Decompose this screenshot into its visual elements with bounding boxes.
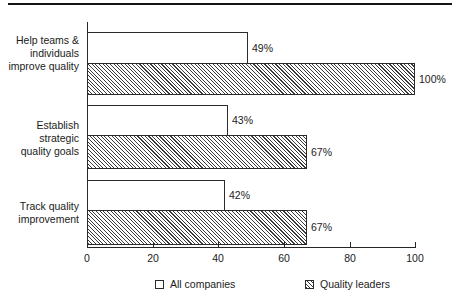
category-label-line: Help teams & [0,34,79,47]
top-divider-rule [8,3,452,5]
bar-value-all-companies-establish-goals: 43% [232,114,253,126]
bar-value-quality-leaders-establish-goals: 67% [311,146,332,158]
x-tick-0 [87,242,88,248]
category-label-line: improvement [0,213,79,226]
bar-all-companies-help-teams [87,32,248,64]
bar-quality-leaders-establish-goals [87,135,307,169]
category-label-line: Establish [0,119,79,132]
bar-all-companies-track-improvement [87,180,225,211]
x-axis-line [87,247,416,248]
legend-item-all-companies: All companies [155,278,235,291]
category-label-help-teams: Help teams & individuals improve quality [0,34,79,73]
category-label-line: Track quality [0,200,79,213]
hatched-square-icon [305,280,314,289]
category-label-line: quality goals [0,145,79,158]
category-label-establish-goals: Establish strategic quality goals [0,119,79,158]
category-label-line: improve quality [0,60,79,73]
bar-value-all-companies-track-improvement: 42% [229,189,250,201]
bar-quality-leaders-track-improvement [87,210,307,245]
bar-all-companies-establish-goals [87,105,228,136]
bar-value-quality-leaders-track-improvement: 67% [311,221,332,233]
x-tick-100 [415,242,416,248]
horizontal-bar-chart: Help teams & individuals improve quality… [0,0,460,302]
x-tick-label-80: 80 [344,252,356,264]
bar-value-quality-leaders-help-teams: 100% [419,73,446,85]
bar-value-all-companies-help-teams: 49% [252,42,273,54]
x-tick-20 [153,242,154,248]
open-square-icon [155,280,164,289]
legend-label-all-companies: All companies [170,278,235,291]
x-tick-label-100: 100 [406,252,424,264]
category-label-line: individuals [0,47,79,60]
legend-label-quality-leaders: Quality leaders [320,278,390,291]
x-tick-80 [350,242,351,248]
category-label-line: strategic [0,132,79,145]
bar-quality-leaders-help-teams [87,63,415,95]
x-tick-60 [284,242,285,248]
x-tick-label-0: 0 [84,252,90,264]
x-tick-label-20: 20 [147,252,159,264]
x-tick-label-40: 40 [212,252,224,264]
x-tick-label-60: 60 [278,252,290,264]
x-tick-40 [218,242,219,248]
legend-item-quality-leaders: Quality leaders [305,278,390,291]
category-label-track-improvement: Track quality improvement [0,200,79,226]
